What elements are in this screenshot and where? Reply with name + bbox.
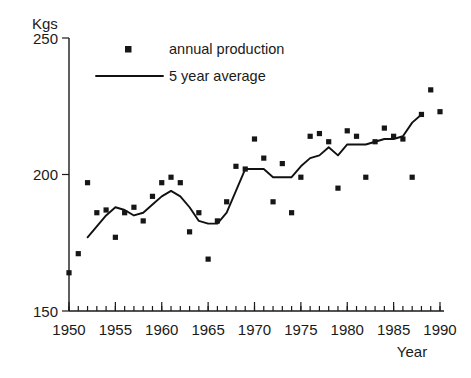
data-point-marker	[76, 251, 81, 256]
data-point-marker	[94, 210, 99, 215]
data-point-marker	[419, 112, 424, 117]
data-point-marker	[382, 125, 387, 130]
data-point-marker	[150, 194, 155, 199]
data-point-marker	[141, 218, 146, 223]
x-tick-label: 1965	[191, 321, 224, 338]
data-point-marker	[168, 175, 173, 180]
data-point-marker	[270, 199, 275, 204]
data-point-marker	[345, 128, 350, 133]
data-point-marker	[289, 210, 294, 215]
data-point-marker	[261, 156, 266, 161]
chart-container: Kgs Year 150200250 195019551960196519701…	[0, 0, 471, 378]
data-point-marker	[159, 180, 164, 185]
annual-production-markers	[66, 87, 442, 275]
chart-legend: annual production 5 year average	[96, 41, 284, 84]
data-point-marker	[66, 270, 71, 275]
x-tick-label: 1950	[52, 321, 85, 338]
data-point-marker	[224, 199, 229, 204]
data-point-marker	[196, 210, 201, 215]
y-tick-label: 250	[33, 30, 58, 47]
data-point-marker	[113, 235, 118, 240]
x-tick-label: 1990	[423, 321, 456, 338]
data-point-marker	[104, 207, 109, 212]
data-point-marker	[298, 175, 303, 180]
data-point-marker	[206, 257, 211, 262]
data-point-marker	[317, 131, 322, 136]
data-point-marker	[354, 134, 359, 139]
data-point-marker	[243, 166, 248, 171]
x-tick-label: 1975	[284, 321, 317, 338]
data-point-marker	[326, 139, 331, 144]
x-tick-label: 1970	[238, 321, 271, 338]
five-year-average-line	[88, 114, 422, 237]
y-tick-label: 200	[33, 166, 58, 183]
x-axis-tick-labels: 195019551960196519701975198019851990	[52, 321, 456, 338]
legend-label-annual-production: annual production	[169, 41, 284, 57]
data-point-marker	[187, 229, 192, 234]
legend-marker-square-icon	[125, 46, 132, 53]
data-point-marker	[400, 136, 405, 141]
x-tick-label: 1960	[145, 321, 178, 338]
data-point-marker	[308, 134, 313, 139]
data-point-marker	[233, 164, 238, 169]
data-point-marker	[280, 161, 285, 166]
data-point-marker	[391, 134, 396, 139]
data-point-marker	[335, 186, 340, 191]
production-chart: Kgs Year 150200250 195019551960196519701…	[0, 0, 471, 378]
data-point-marker	[372, 139, 377, 144]
data-point-marker	[252, 136, 257, 141]
data-point-marker	[85, 180, 90, 185]
data-point-marker	[437, 109, 442, 114]
data-point-marker	[122, 210, 127, 215]
data-point-marker	[428, 87, 433, 92]
data-point-marker	[131, 205, 136, 210]
legend-label-five-year-average: 5 year average	[169, 68, 266, 84]
y-axis-ticks	[62, 38, 69, 311]
data-point-marker	[178, 180, 183, 185]
x-tick-label: 1985	[377, 321, 410, 338]
data-point-marker	[410, 175, 415, 180]
data-point-marker	[363, 175, 368, 180]
data-point-marker	[215, 218, 220, 223]
y-tick-label: 150	[33, 303, 58, 320]
x-axis-title: Year	[397, 343, 427, 360]
x-tick-label: 1980	[331, 321, 364, 338]
x-tick-label: 1955	[99, 321, 132, 338]
y-axis-tick-labels: 150200250	[33, 30, 58, 320]
